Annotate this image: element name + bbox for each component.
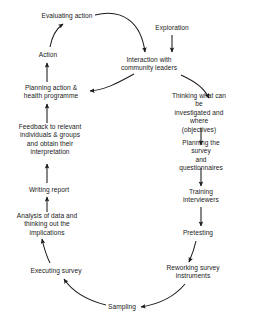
node-reworking-survey-instruments: Reworking survey instruments [166,264,219,281]
edge-action-to-evaluating-action [50,24,63,47]
edge-pretesting-to-reworking [189,241,196,262]
node-sampling: Sampling [108,303,136,311]
edge-interaction-to-planning-action [90,74,134,91]
node-executing-survey: Executing survey [30,267,81,275]
node-training-interviewers: Training interviewers [183,188,219,205]
edge-sampling-to-executing-survey [64,279,106,305]
edge-evaluating-action-to-interaction [95,13,145,52]
node-feedback-to-relevant-individuals: Feedback to relevant individuals & group… [19,123,82,157]
node-writing-report: Writing report [29,186,69,194]
edge-reworking-to-sampling [141,284,185,307]
node-evaluating-action: Evaluating action [41,12,92,20]
node-exploration: Exploration [155,24,189,32]
node-thinking-what-can-be-investigated: Thinking what can be investigated and wh… [170,92,228,134]
node-planning-action-health-programme: Planning action & health programme [24,84,78,101]
action-research-cycle-diagram: Evaluating action Exploration Action Int… [0,0,257,326]
node-pretesting: Pretesting [183,229,213,237]
node-analysis-of-data: Analysis of data and thinking out the im… [17,212,77,237]
node-planning-the-survey-and-questionnaires: Planning the survey and questionnaires [173,139,229,173]
node-interaction-with-community-leaders: Interaction with community leaders [121,56,177,73]
edge-executing-survey-to-analysis [42,239,50,263]
node-action: Action [39,51,58,59]
